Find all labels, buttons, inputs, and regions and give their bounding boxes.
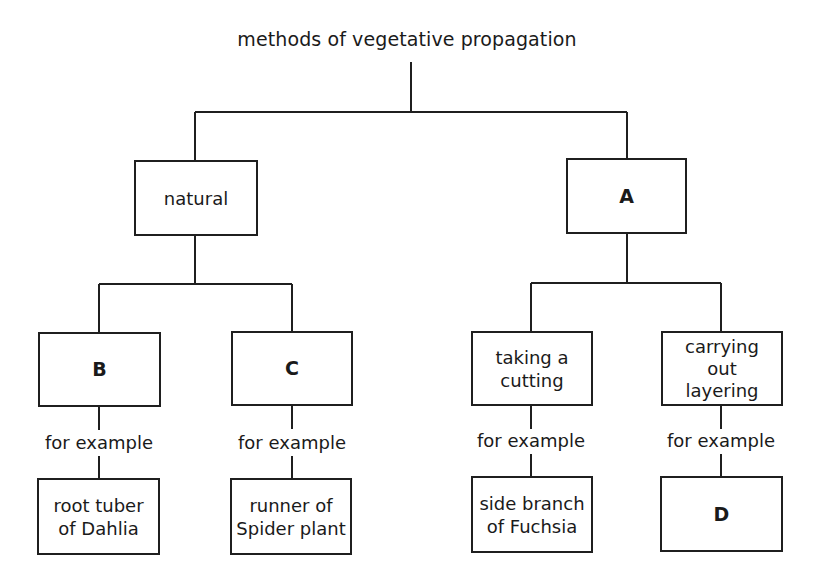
example-c-line-2: Spider plant [236, 517, 345, 540]
for-example-label-cutting: for example [451, 430, 611, 452]
node-carrying-out-layering: carrying out layering [661, 331, 783, 406]
node-cutting-line-2: cutting [500, 369, 563, 392]
example-b-line-1: root tuber [53, 494, 143, 517]
example-root-tuber-dahlia: root tuber of Dahlia [37, 478, 160, 555]
example-d-blank: D [660, 476, 783, 552]
for-example-label-layering: for example [641, 430, 801, 452]
node-a-blank: A [566, 158, 687, 234]
node-c-label: C [285, 357, 299, 380]
node-natural-label: natural [164, 187, 228, 210]
example-c-line-1: runner of [249, 494, 332, 517]
example-runner-spider-plant: runner of Spider plant [230, 478, 352, 555]
example-cutting-line-2: of Fuchsia [487, 515, 578, 538]
node-layering-line-3: layering [686, 380, 759, 402]
node-b-blank: B [38, 332, 161, 407]
node-natural: natural [134, 160, 258, 236]
diagram-title: methods of vegetative propagation [0, 28, 814, 50]
node-a-label: A [619, 185, 634, 208]
node-layering-line-1: carrying [685, 336, 759, 358]
for-example-label-b: for example [19, 432, 179, 454]
node-taking-a-cutting: taking a cutting [471, 331, 593, 406]
for-example-label-c: for example [212, 432, 372, 454]
node-b-label: B [92, 358, 106, 381]
example-cutting-line-1: side branch [479, 492, 584, 515]
node-cutting-line-1: taking a [495, 346, 568, 369]
example-d-label: D [714, 503, 730, 526]
node-layering-line-2: out [707, 358, 736, 380]
example-side-branch-fuchsia: side branch of Fuchsia [471, 476, 593, 553]
example-b-line-2: of Dahlia [58, 517, 138, 540]
node-c-blank: C [231, 331, 353, 406]
